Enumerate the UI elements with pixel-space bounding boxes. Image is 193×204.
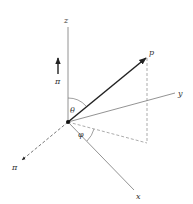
phi-arc bbox=[87, 129, 94, 141]
pi-dashed-line bbox=[22, 122, 68, 160]
pi-dashed-label: π bbox=[11, 163, 18, 172]
z-axis-label: z bbox=[63, 16, 69, 25]
p-vector-label: p bbox=[149, 48, 154, 57]
origin-point bbox=[66, 120, 70, 124]
y-axis-label: y bbox=[177, 89, 183, 98]
spherical-coordinate-diagram: z π y x π p θ φ bbox=[0, 0, 193, 204]
theta-arc bbox=[68, 98, 86, 106]
x-axis-label: x bbox=[136, 192, 141, 201]
theta-label: θ bbox=[70, 106, 75, 115]
p-vector bbox=[68, 58, 146, 122]
y-axis bbox=[68, 93, 175, 122]
pi-up-label: π bbox=[54, 77, 61, 86]
phi-label: φ bbox=[78, 130, 84, 139]
